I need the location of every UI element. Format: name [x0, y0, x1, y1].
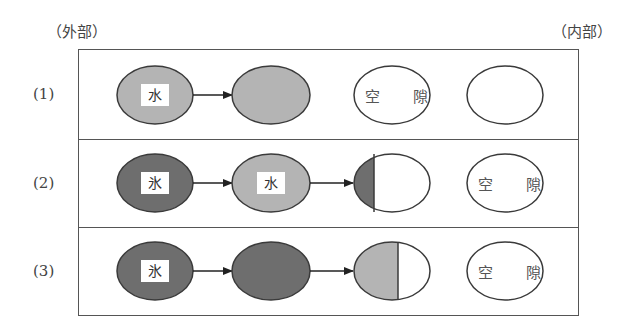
void-text: 空 隙 — [478, 173, 555, 194]
ice-tag: 氷 — [141, 260, 169, 282]
water-ellipse — [232, 66, 310, 124]
water-tag: 水 — [257, 172, 285, 194]
void-text: 空 隙 — [365, 85, 442, 106]
diagram-shapes — [0, 0, 633, 332]
void-text: 空 隙 — [478, 261, 555, 282]
void-ellipse — [467, 66, 543, 124]
ice-ellipse — [232, 242, 310, 300]
water-tag: 水 — [141, 84, 169, 106]
ice-tag: 氷 — [141, 172, 169, 194]
